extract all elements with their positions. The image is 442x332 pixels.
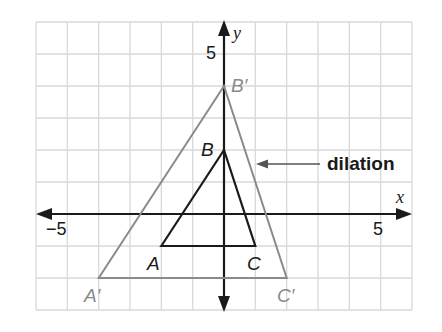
dilation-label: dilation xyxy=(327,154,395,173)
x-tick-neg5: −5 xyxy=(46,220,67,238)
dilation-callout-arrow xyxy=(256,160,320,169)
original-triangle xyxy=(161,150,255,246)
x-axis-right-arrow-icon xyxy=(396,208,412,220)
vertex-label-c-prime: C′ xyxy=(277,286,294,305)
y-axis-label: y xyxy=(233,24,241,42)
arrow-left-icon xyxy=(256,160,268,169)
vertex-label-c: C xyxy=(247,254,261,273)
vertex-label-b-prime: B′ xyxy=(231,76,247,95)
vertex-label-a: A xyxy=(147,254,160,273)
y-tick-5: 5 xyxy=(206,44,216,62)
vertex-label-a-prime: A′ xyxy=(84,286,100,305)
x-tick-5: 5 xyxy=(373,220,383,238)
x-axis-label: x xyxy=(396,188,404,206)
vertex-label-b: B xyxy=(201,140,214,159)
